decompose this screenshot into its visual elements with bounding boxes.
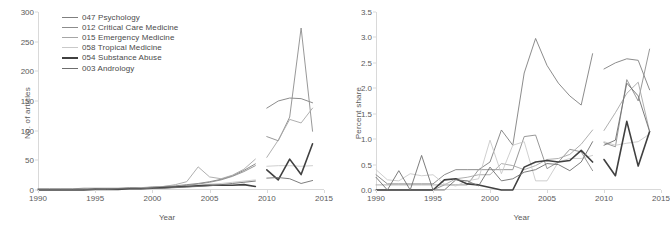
y-axis-tick-mark	[373, 88, 376, 89]
y-axis-tick-mark	[35, 130, 38, 131]
y-axis-tick-mark	[373, 164, 376, 165]
legend-label: 003 Andrology	[82, 64, 134, 73]
legend-item: 012 Critical Care Medicine	[62, 22, 178, 32]
y-axis-tick-mark	[35, 101, 38, 102]
legend-label: 058 Tropical Medicine	[82, 43, 162, 52]
y-axis-tick-mark	[35, 160, 38, 161]
legend-item: 015 Emergency Medicine	[62, 32, 178, 42]
x-axis-tick-mark	[267, 190, 268, 193]
x-axis-label-left: Year	[0, 213, 334, 222]
x-axis-tick-mark	[210, 190, 211, 193]
y-axis-tick-mark	[373, 37, 376, 38]
y-axis-tick-label: 1.5	[361, 109, 372, 118]
series-line	[267, 98, 313, 108]
legend-swatch-line-icon	[62, 37, 78, 38]
plot-area-right: 0.00.51.01.52.02.53.03.51990199520002005…	[376, 12, 661, 190]
chart-panel-left: No. of articles 050100150200250300199019…	[0, 0, 334, 226]
legend-label: 054 Substance Abuse	[82, 53, 162, 62]
x-axis-tick-mark	[433, 190, 434, 193]
y-axis-tick-mark	[373, 113, 376, 114]
legend-label: 047 Psychology	[82, 13, 140, 22]
y-axis-tick-mark	[35, 12, 38, 13]
x-axis-tick-mark	[547, 190, 548, 193]
y-axis-tick-label: 2.0	[361, 84, 372, 93]
legend-swatch-line-icon	[62, 47, 78, 48]
x-axis-tick-mark	[490, 190, 491, 193]
x-axis-tick-label: 1995	[86, 194, 104, 203]
series-line	[604, 134, 650, 145]
legend-label: 012 Critical Care Medicine	[82, 23, 178, 32]
legend-swatch-line-icon	[62, 68, 78, 69]
x-axis-tick-label: 2000	[481, 194, 499, 203]
x-axis-tick-mark	[324, 190, 325, 193]
y-axis-tick-label: 0.5	[361, 160, 372, 169]
chart-panel-right: Percent share 0.00.51.01.52.02.53.03.519…	[334, 0, 669, 226]
y-axis-tick-mark	[35, 41, 38, 42]
x-axis-tick-label: 2000	[143, 194, 161, 203]
y-axis-tick-label: 3.5	[361, 8, 372, 17]
x-axis-tick-label: 1990	[29, 194, 47, 203]
series-line	[604, 121, 650, 175]
x-axis-tick-label: 2015	[315, 194, 333, 203]
series-line	[604, 83, 650, 145]
legend-item: 058 Tropical Medicine	[62, 43, 178, 53]
y-axis-tick-label: 250	[21, 37, 34, 46]
x-axis-tick-mark	[152, 190, 153, 193]
series-line	[267, 166, 313, 167]
x-axis-tick-mark	[95, 190, 96, 193]
y-axis-tick-mark	[373, 139, 376, 140]
x-axis-tick-mark	[376, 190, 377, 193]
legend-label: 015 Emergency Medicine	[82, 33, 174, 42]
y-axis-tick-label: 3.0	[361, 33, 372, 42]
x-axis-tick-mark	[661, 190, 662, 193]
x-axis-tick-mark	[38, 190, 39, 193]
x-axis-tick-label: 2010	[258, 194, 276, 203]
x-axis-tick-label: 2015	[652, 194, 670, 203]
x-axis-label-right: Year	[374, 213, 669, 222]
x-axis-tick-label: 1995	[424, 194, 442, 203]
x-axis-tick-label: 2005	[201, 194, 219, 203]
legend-item: 003 Andrology	[62, 63, 178, 73]
series-line	[604, 49, 650, 147]
x-axis-tick-label: 2010	[595, 194, 613, 203]
y-axis-tick-label: 2.5	[361, 58, 372, 67]
y-axis-tick-label: 100	[21, 126, 34, 135]
legend: 047 Psychology012 Critical Care Medicine…	[62, 12, 178, 73]
y-axis-tick-label: 300	[21, 8, 34, 17]
x-axis-tick-label: 2005	[538, 194, 556, 203]
legend-item: 047 Psychology	[62, 12, 178, 22]
y-axis-tick-label: 150	[21, 97, 34, 106]
series-line	[376, 140, 593, 186]
series-lines-right	[376, 12, 661, 190]
x-axis-tick-label: 1990	[367, 194, 385, 203]
x-axis-tick-mark	[604, 190, 605, 193]
y-axis-tick-label: 200	[21, 67, 34, 76]
series-line	[267, 28, 313, 141]
y-axis-tick-label: 1.0	[361, 135, 372, 144]
y-axis-tick-mark	[373, 12, 376, 13]
legend-item: 054 Substance Abuse	[62, 53, 178, 63]
legend-swatch-line-icon	[62, 27, 78, 28]
series-line	[267, 178, 313, 184]
series-line	[267, 144, 313, 180]
y-axis-tick-mark	[373, 62, 376, 63]
legend-swatch-line-icon	[62, 57, 78, 59]
y-axis-tick-label: 50	[25, 156, 34, 165]
y-axis-tick-mark	[35, 71, 38, 72]
legend-swatch-line-icon	[62, 17, 78, 18]
